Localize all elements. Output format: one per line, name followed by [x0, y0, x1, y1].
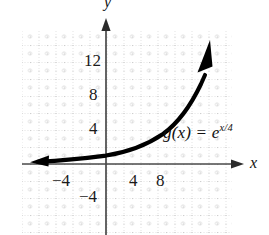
x-tick-label-8: 8	[156, 172, 165, 189]
curve-equation-exponent: x/4	[220, 122, 233, 133]
y-tick-label-12: 12	[84, 52, 101, 69]
y-axis-label: y	[104, 0, 111, 10]
y-tick-label-8: 8	[89, 86, 98, 103]
curve-equation-label: g(x) = ex/4	[163, 122, 233, 143]
curve-equation-base: g(x) = e	[163, 123, 220, 142]
x-axis-label: x	[250, 155, 257, 171]
y-tick-label-minus-4: −4	[79, 188, 97, 205]
y-tick-label-4: 4	[89, 120, 98, 137]
graph-canvas	[0, 0, 269, 235]
x-tick-label-4: 4	[129, 172, 138, 189]
x-tick-label-minus-4: −4	[52, 172, 70, 189]
exponential-function-graph: y x 12 8 4 −4 −4 4 8 g(x) = ex/4	[0, 0, 269, 235]
